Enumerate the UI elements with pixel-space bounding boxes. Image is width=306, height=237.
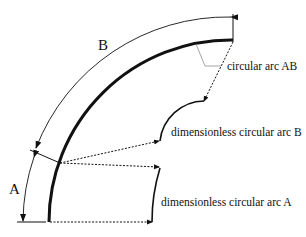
label-a: A: [9, 181, 20, 197]
label-dimensionless-arc-a: dimensionless circular arc A: [161, 196, 292, 208]
dotted-arrow-to-arc-a-top: [60, 163, 159, 167]
arc-diagram: B A circular arc AB dimensionless circul…: [0, 0, 306, 237]
label-circular-arc-ab: circular arc AB: [227, 60, 298, 72]
arc-ab-leader: [196, 44, 221, 66]
dimensionless-arc-a: [152, 168, 160, 222]
dotted-arrow-to-arc-b: [60, 141, 159, 163]
dimension-arc-a: [23, 157, 34, 221]
ab-separator-line: [30, 150, 60, 163]
label-b: B: [98, 37, 108, 53]
label-dimensionless-arc-b: dimensionless circular arc B: [171, 126, 302, 138]
